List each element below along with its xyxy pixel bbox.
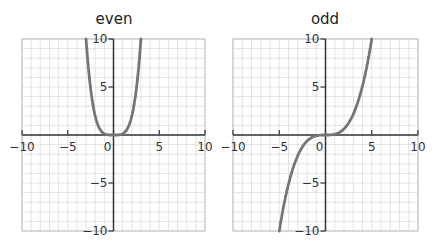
y-tick-label: 5 xyxy=(312,80,320,94)
x-tick-label: −5 xyxy=(59,140,77,154)
y-tick-label: −10 xyxy=(82,224,107,238)
y-tick-label: −5 xyxy=(302,176,320,190)
x-tick-label: 10 xyxy=(410,140,425,154)
odd-chart: −10−50510−10−5510 xyxy=(220,32,425,238)
y-tick-label: 10 xyxy=(92,32,107,46)
y-tick-label: −10 xyxy=(294,224,319,238)
y-tick-label: −5 xyxy=(90,176,108,190)
y-tick-label: 5 xyxy=(100,80,108,94)
even-chart: −10−50510−10−5510 xyxy=(9,32,212,238)
x-tick-label: −10 xyxy=(9,140,34,154)
x-tick-label: 0 xyxy=(316,140,324,154)
x-tick-label: −5 xyxy=(270,140,288,154)
x-tick-label: 0 xyxy=(104,140,112,154)
x-tick-label: 10 xyxy=(197,140,212,154)
y-tick-label: 10 xyxy=(304,32,319,46)
x-tick-label: 5 xyxy=(368,140,376,154)
charts-canvas: −10−50510−10−5510−10−50510−10−5510 xyxy=(0,0,441,250)
x-tick-label: 5 xyxy=(155,140,163,154)
x-tick-label: −10 xyxy=(220,140,245,154)
